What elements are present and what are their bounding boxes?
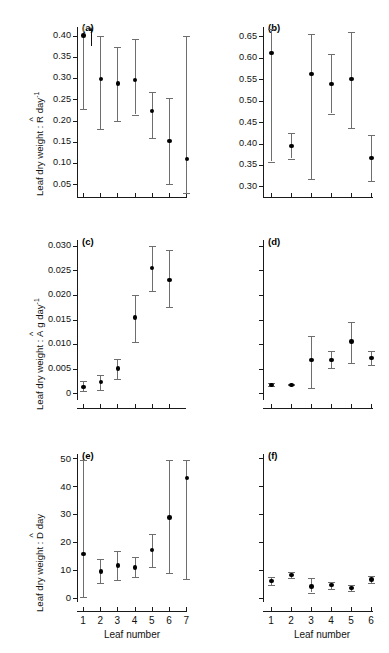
panel-a-plot-area: 0.050.100.150.200.250.300.350.40 <box>77 27 187 205</box>
panel-e-error-cap <box>166 460 173 461</box>
panel-b-x-tick <box>271 193 272 198</box>
panel-b-error-cap <box>348 128 355 129</box>
panel-e-x-tick <box>186 607 187 612</box>
panel-d-error-cap <box>328 351 335 352</box>
panel-a-x-tick <box>83 193 84 198</box>
panel-c-y-tick <box>73 320 77 321</box>
panel-a-error-bar <box>186 36 187 193</box>
panel-b-error-cap <box>268 162 275 163</box>
panel-c-x-tick <box>100 404 101 409</box>
panel-c-data-point <box>167 278 171 282</box>
panel-f-x-tick <box>331 607 332 612</box>
panel-c-y-tick <box>73 246 77 247</box>
panel-f-y-tick <box>259 514 263 515</box>
panel-a-error-cap <box>166 98 173 99</box>
panel-b-y-tick <box>259 122 263 123</box>
panel-e-x-tick <box>117 607 118 612</box>
panel-b-data-point <box>309 72 313 76</box>
panel-b-x-tick <box>371 193 372 198</box>
panel-b-data-point <box>329 82 333 86</box>
panel-e-data-point <box>81 552 85 556</box>
panel-b-y-tick-label: 0.30 <box>223 182 257 191</box>
panel-e-y-tick <box>73 570 77 571</box>
panel-c-y-tick-label: 0.005 <box>37 364 71 373</box>
panel-b-x-tick <box>291 193 292 198</box>
panel-b-y-tick <box>259 36 263 37</box>
panel-a-x-tick <box>100 193 101 198</box>
panel-e-y-tick <box>73 486 77 487</box>
panel-d-data-point <box>269 383 273 387</box>
panel-a: (a) 0.050.100.150.200.250.300.350.40 <box>0 0 190 222</box>
panel-b-y-tick <box>259 186 263 187</box>
panel-f-error-cap <box>268 577 275 578</box>
panel-b-y-tick-label: 0.60 <box>223 53 257 62</box>
panel-e-data-point <box>99 569 103 573</box>
panel-c-error-cap <box>114 359 121 360</box>
panel-b-x-axis <box>263 197 373 198</box>
panel-d-x-tick <box>331 404 332 409</box>
panel-b-y-tick-label: 0.40 <box>223 139 257 148</box>
panel-d-x-tick <box>291 404 292 409</box>
panel-c-error-cap <box>80 381 87 382</box>
panel-c-y-tick-label: 0.025 <box>37 266 71 275</box>
panel-e-error-cap <box>166 573 173 574</box>
panel-e-x-tick <box>135 607 136 612</box>
panel-d-error-cap <box>308 388 315 389</box>
panel-e-y-axis <box>77 454 78 602</box>
panel-e-error-cap <box>149 567 156 568</box>
panel-c: (c) 00.0050.0100.0150.0200.0250.030 <box>0 222 190 434</box>
panel-b-error-bar <box>311 34 312 179</box>
panel-f-y-tick <box>259 598 263 599</box>
panel-f-plot-area: 123456 <box>263 454 381 629</box>
panel-a-up-arrow-head-icon <box>89 27 93 31</box>
panel-d-y-tick <box>259 320 263 321</box>
panel-e-data-point <box>133 565 137 569</box>
panel-b-error-cap <box>288 159 295 160</box>
panel-e-error-cap <box>97 559 104 560</box>
panel-b-error-cap <box>288 133 295 134</box>
panel-c-x-tick <box>169 404 170 409</box>
panel-e-y-tick <box>73 542 77 543</box>
panel-d-data-point <box>349 339 353 343</box>
panel-d-data-point <box>289 383 293 387</box>
panel-e-y-tick <box>73 458 77 459</box>
panel-e-y-tick-label: 10 <box>37 565 71 574</box>
panel-c-plot-area: 00.0050.0100.0150.0200.0250.030 <box>77 240 187 416</box>
panel-d-y-tick <box>259 344 263 345</box>
panel-a-error-cap <box>97 129 104 130</box>
panel-b-error-cap <box>368 135 375 136</box>
panel-f-y-tick <box>259 570 263 571</box>
panel-b-y-tick-label: 0.45 <box>223 118 257 127</box>
panel-e-y-tick-label: 0 <box>37 593 71 602</box>
panel-a-error-cap <box>149 138 156 139</box>
panel-a-error-cap <box>149 92 156 93</box>
panel-d-x-tick <box>371 404 372 409</box>
panel-b-y-tick-label: 0.65 <box>223 32 257 41</box>
panel-f-error-cap <box>368 583 375 584</box>
panel-a-data-point <box>133 78 137 82</box>
panel-b-error-cap <box>328 114 335 115</box>
panel-f-error-cap <box>288 578 295 579</box>
panel-e-y-tick-label: 40 <box>37 482 71 491</box>
panel-e-data-point <box>150 548 154 552</box>
panel-a-data-point <box>81 33 85 37</box>
panel-d-x-tick <box>271 404 272 409</box>
panel-d-error-cap <box>368 351 375 352</box>
panel-d-data-point <box>369 356 373 360</box>
panel-f-x-tick-label: 2 <box>281 616 301 626</box>
panel-b-data-point <box>349 77 353 81</box>
panel-e-data-point <box>116 563 120 567</box>
panel-f-y-tick <box>259 542 263 543</box>
panel-a-x-tick <box>152 193 153 198</box>
panel-c-error-cap <box>132 342 139 343</box>
panel-c-error-cap <box>97 375 104 376</box>
panel-a-data-point <box>99 77 103 81</box>
panel-b-data-point <box>369 156 373 160</box>
panel-f-x-tick-label: 5 <box>341 616 361 626</box>
panel-e-data-point <box>185 476 189 480</box>
panel-c-y-tick <box>73 270 77 271</box>
panel-f-y-axis <box>263 454 264 602</box>
panel-f-x-tick-label: 3 <box>301 616 321 626</box>
panel-b-y-tick <box>259 144 263 145</box>
panel-e-error-cap <box>80 460 87 461</box>
